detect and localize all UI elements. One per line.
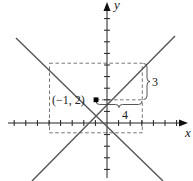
x-axis-label: x xyxy=(184,125,191,140)
point-label: (−1, 2) xyxy=(52,93,85,107)
coordinate-plane-diagram: y x (−1, 2) 3 4 xyxy=(0,0,193,181)
run-label: 4 xyxy=(122,108,128,122)
descending-line xyxy=(16,38,163,181)
intersection-point xyxy=(94,97,99,102)
ascending-line xyxy=(32,36,175,181)
y-axis-arrow-icon xyxy=(104,2,111,11)
y-axis-label: y xyxy=(112,0,120,12)
rise-brace xyxy=(144,64,151,100)
run-brace xyxy=(96,101,142,108)
x-axis xyxy=(8,120,188,127)
rise-label: 3 xyxy=(152,75,158,89)
y-axis xyxy=(104,2,111,178)
